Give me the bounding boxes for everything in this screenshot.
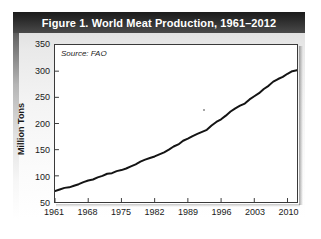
figure-root: Figure 1. World Meat Production, 1961–20… (0, 0, 321, 239)
x-tick-label: 1961 (37, 208, 71, 217)
figure-title-bar: Figure 1. World Meat Production, 1961–20… (13, 12, 305, 33)
x-tick-label: 1996 (204, 208, 238, 217)
plot-shadow-right (299, 46, 303, 205)
y-tick-label: 350 (24, 40, 50, 49)
x-tick-label: 1982 (137, 208, 171, 217)
source-annotation: Source: FAO (61, 49, 107, 58)
x-tick-label: 1975 (104, 208, 138, 217)
x-tick-label: 2010 (271, 208, 305, 217)
line-chart-svg (55, 45, 297, 202)
axis-ticks (55, 71, 288, 202)
plot-area (54, 44, 298, 203)
scan-speck-artifact (203, 109, 205, 111)
x-tick-label: 2003 (238, 208, 272, 217)
x-tick-label: 1968 (70, 208, 104, 217)
y-tick-label: 300 (24, 67, 50, 76)
data-line-world-meat-production (55, 70, 297, 191)
y-tick-label: 100 (24, 173, 50, 182)
y-tick-label: 200 (24, 120, 50, 129)
y-tick-label: 250 (24, 93, 50, 102)
y-tick-label: 150 (24, 146, 50, 155)
page-title: Figure 1. World Meat Production, 1961–20… (42, 17, 276, 29)
x-tick-label: 1989 (171, 208, 205, 217)
